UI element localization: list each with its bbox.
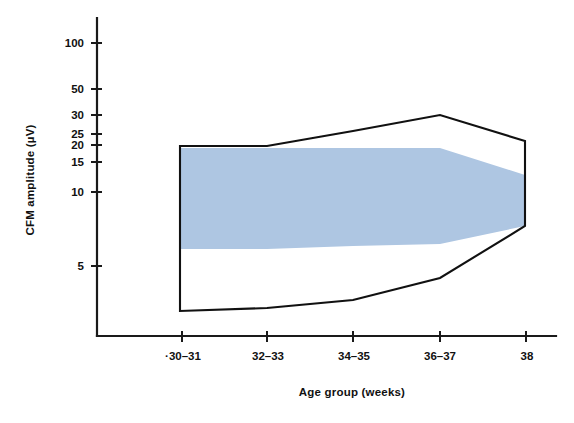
y-tick-label-10: 10 bbox=[71, 186, 84, 198]
y-axis-title: CFM amplitude (µV) bbox=[24, 124, 36, 235]
shaded-range-band bbox=[180, 148, 525, 249]
y-tick-label-30: 30 bbox=[71, 109, 84, 121]
x-axis-title: Age group (weeks) bbox=[299, 386, 405, 398]
chart-svg: 100 50 30 25 20 15 10 5 ·30–31 32–33 34–… bbox=[0, 0, 574, 423]
x-tick-label-38: 38 bbox=[521, 350, 534, 362]
x-axis-tick-labels: ·30–31 32–33 34–35 36–37 38 bbox=[165, 350, 534, 362]
y-tick-label-20: 20 bbox=[71, 139, 84, 151]
y-axis-tick-labels: 100 50 30 25 20 15 10 5 bbox=[65, 37, 85, 272]
x-tick-label-34-35: 34–35 bbox=[338, 350, 371, 362]
y-tick-label-5: 5 bbox=[78, 260, 85, 272]
cfm-amplitude-chart: 100 50 30 25 20 15 10 5 ·30–31 32–33 34–… bbox=[0, 0, 574, 423]
y-tick-label-50: 50 bbox=[71, 83, 84, 95]
y-tick-label-100: 100 bbox=[65, 37, 84, 49]
y-tick-label-15: 15 bbox=[71, 156, 84, 168]
x-tick-label-30-31: ·30–31 bbox=[165, 350, 201, 362]
x-tick-label-36-37: 36–37 bbox=[424, 350, 456, 362]
x-tick-label-32-33: 32–33 bbox=[252, 350, 284, 362]
